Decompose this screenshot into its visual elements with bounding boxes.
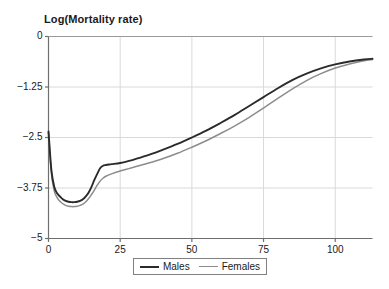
x-tick-label: 100	[315, 244, 355, 255]
series-line-females	[49, 60, 373, 207]
x-tick-label: 75	[244, 244, 284, 255]
legend-entry-males: Males	[140, 261, 190, 272]
legend-label-males: Males	[163, 261, 190, 272]
y-tick-label: −5	[31, 232, 42, 243]
legend-line-icon-males	[140, 266, 159, 268]
chart-legend: Males Females	[133, 258, 267, 275]
y-tick-label: −2.5	[23, 131, 43, 142]
legend-line-icon-females	[199, 266, 218, 267]
y-tick-label: 0	[37, 30, 43, 41]
x-tick-label: 25	[100, 244, 140, 255]
legend-label-females: Females	[222, 261, 260, 272]
data-series	[49, 59, 373, 207]
x-tick-label: 0	[29, 244, 69, 255]
legend-entry-females: Females	[199, 261, 260, 272]
y-tick-label: −3.75	[17, 182, 42, 193]
x-tick-label: 50	[172, 244, 212, 255]
mortality-rate-chart: Log(Mortality rate) 0−1.25−2.5−3.75−5 02…	[0, 0, 389, 289]
series-line-males	[49, 59, 373, 202]
y-tick-label: −1.25	[17, 81, 42, 92]
